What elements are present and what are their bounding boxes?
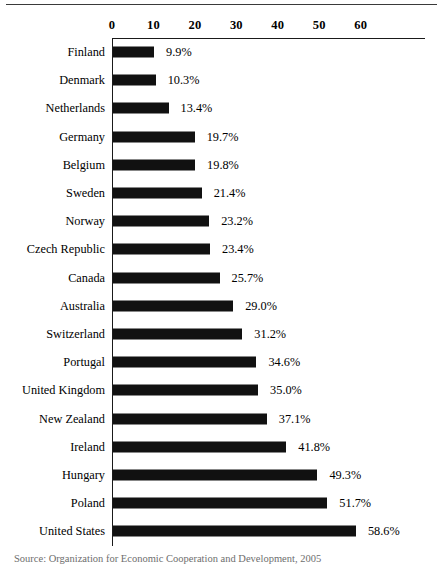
category-label: New Zealand [39, 412, 105, 426]
x-tick-label: 20 [188, 17, 201, 33]
bar-row: Finland9.9% [0, 38, 443, 66]
x-tick-label: 30 [230, 17, 243, 33]
bar-value-label: 41.8% [298, 440, 330, 454]
bar-row: New Zealand37.1% [0, 404, 443, 432]
bar-value-label: 9.9% [166, 45, 192, 59]
bar [113, 272, 220, 283]
category-label: Czech Republic [27, 242, 105, 256]
category-label: Canada [68, 271, 105, 285]
bar-row: United States58.6% [0, 517, 443, 545]
bar [113, 413, 267, 424]
bar [113, 469, 317, 480]
bar-value-label: 21.4% [214, 186, 246, 200]
bar-value-label: 49.3% [329, 468, 361, 482]
bar-rows: Finland9.9%Denmark10.3%Netherlands13.4%G… [0, 38, 443, 545]
bar-value-label: 34.6% [268, 355, 300, 369]
bar [113, 131, 195, 142]
category-label: Portugal [63, 355, 105, 369]
category-label: Belgium [63, 158, 105, 172]
source-note: Source: Organization for Economic Cooper… [14, 553, 321, 565]
bar [113, 357, 256, 368]
bar-value-label: 29.0% [245, 299, 277, 313]
category-label: Switzerland [46, 327, 105, 341]
category-label: United Kingdom [22, 383, 105, 397]
x-tick-label: 60 [354, 17, 367, 33]
bar-row: Czech Republic23.4% [0, 235, 443, 263]
bar [113, 385, 258, 396]
bar-value-label: 37.1% [279, 412, 311, 426]
category-label: Finland [67, 45, 105, 59]
bar-value-label: 19.7% [207, 130, 239, 144]
category-label: Norway [65, 214, 105, 228]
bar-value-label: 10.3% [168, 73, 200, 87]
bar-row: Sweden21.4% [0, 179, 443, 207]
bar [113, 300, 233, 311]
bar-value-label: 23.2% [221, 214, 253, 228]
bar [113, 526, 356, 537]
bar-row: Ireland41.8% [0, 433, 443, 461]
bar-value-label: 23.4% [222, 242, 254, 256]
category-label: Denmark [59, 73, 105, 87]
bar-row: Australia29.0% [0, 292, 443, 320]
horizontal-bar-chart: 0102030405060 Finland9.9%Denmark10.3%Net… [0, 0, 443, 565]
bar-value-label: 19.8% [207, 158, 239, 172]
category-label: Poland [71, 496, 105, 510]
bar [113, 328, 242, 339]
category-label: Germany [59, 130, 105, 144]
bar [113, 216, 209, 227]
bar-row: Switzerland31.2% [0, 320, 443, 348]
bar [113, 188, 202, 199]
bar [113, 244, 210, 255]
category-label: United States [39, 524, 105, 538]
bar [113, 75, 156, 86]
bar-value-label: 13.4% [181, 101, 213, 115]
bar-row: Denmark10.3% [0, 66, 443, 94]
category-label: Ireland [70, 440, 105, 454]
category-label: Netherlands [46, 101, 105, 115]
bar-row: Norway23.2% [0, 207, 443, 235]
bar-row: Belgium19.8% [0, 151, 443, 179]
bar [113, 47, 154, 58]
bar-row: Hungary49.3% [0, 461, 443, 489]
bar-row: Canada25.7% [0, 264, 443, 292]
bar-row: United Kingdom35.0% [0, 376, 443, 404]
category-label: Australia [60, 299, 105, 313]
bar [113, 498, 327, 509]
bar [113, 159, 195, 170]
x-axis-tick-labels: 0102030405060 [0, 17, 443, 33]
bar-row: Germany19.7% [0, 123, 443, 151]
bar [113, 441, 286, 452]
top-divider-rule [6, 4, 437, 5]
bar-value-label: 31.2% [254, 327, 286, 341]
x-tick-label: 10 [147, 17, 160, 33]
category-label: Hungary [62, 468, 105, 482]
bar-value-label: 51.7% [339, 496, 371, 510]
bar-value-label: 35.0% [270, 383, 302, 397]
x-tick-label: 0 [109, 17, 115, 33]
bar [113, 103, 169, 114]
x-tick-label: 40 [271, 17, 284, 33]
bar-row: Netherlands13.4% [0, 94, 443, 122]
bar-value-label: 25.7% [232, 271, 264, 285]
bar-row: Portugal34.6% [0, 348, 443, 376]
bar-value-label: 58.6% [368, 524, 400, 538]
x-tick-label: 50 [313, 17, 326, 33]
bar-row: Poland51.7% [0, 489, 443, 517]
category-label: Sweden [66, 186, 105, 200]
